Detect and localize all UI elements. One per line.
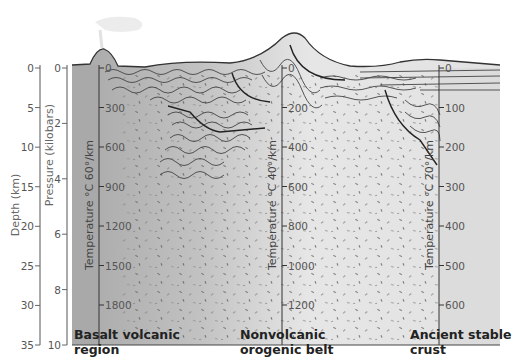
tick-label: 15 xyxy=(21,181,34,193)
tick-label: 900 xyxy=(105,181,125,193)
tick-label: 6 xyxy=(54,228,61,240)
tick-label: 1200 xyxy=(288,299,315,311)
tick-label: 400 xyxy=(445,220,465,232)
tick-label: 20 xyxy=(21,220,34,232)
pressure-axis-label: Pressure (kilobars) xyxy=(43,104,56,206)
temp-label-stable: Temperature °C 20°/km xyxy=(423,140,436,271)
region-label-line: region xyxy=(74,342,180,357)
tick-label: 35 xyxy=(21,339,34,351)
tick-label: 300 xyxy=(445,181,465,193)
tick-label: 1800 xyxy=(105,299,132,311)
tick-label: 30 xyxy=(21,299,34,311)
temp-label-orogenic: Temperature °C 40°/km xyxy=(266,140,279,271)
tick-label: 8 xyxy=(54,284,61,296)
tick-label: 5 xyxy=(27,102,34,114)
depth-axis-label: Depth (km) xyxy=(9,174,22,237)
tick-label: 1200 xyxy=(105,220,132,232)
steam-plume-icon xyxy=(95,17,142,48)
region-label-line: Ancient stable xyxy=(410,327,512,342)
region-label-line: orogenic belt xyxy=(240,342,333,357)
pressure-axis: 0246810 Pressure (kilobars) xyxy=(43,62,67,351)
region-label-line: Nonvolcanic xyxy=(240,327,333,342)
region-label-orogenic: Nonvolcanic orogenic belt xyxy=(240,327,333,357)
temp-label-basalt: Temperature °C 60°/km xyxy=(83,140,96,271)
depth-axis: 05101520253035 Depth (km) xyxy=(9,62,40,351)
tick-label: 200 xyxy=(288,102,308,114)
tick-label: 1000 xyxy=(288,260,315,272)
tick-label: 25 xyxy=(21,260,34,272)
tick-label: 0 xyxy=(445,62,452,74)
tick-label: 300 xyxy=(105,102,125,114)
tick-label: 400 xyxy=(288,141,308,153)
region-label-stable: Ancient stable crust xyxy=(410,327,512,357)
tick-label: 600 xyxy=(105,141,125,153)
tick-label: 600 xyxy=(445,299,465,311)
tick-label: 10 xyxy=(48,339,61,351)
tick-label: 600 xyxy=(288,181,308,193)
tick-label: 0 xyxy=(54,62,61,74)
tick-label: 800 xyxy=(288,220,308,232)
geothermal-gradient-diagram: 05101520253035 Depth (km) 0246810 Pressu… xyxy=(0,0,515,360)
tick-label: 0 xyxy=(27,62,34,74)
tick-label: 0 xyxy=(288,62,295,74)
region-label-line: Basalt volcanic xyxy=(74,327,180,342)
tick-label: 500 xyxy=(445,260,465,272)
tick-label: 200 xyxy=(445,141,465,153)
tick-label: 1500 xyxy=(105,260,132,272)
region-label-line: crust xyxy=(410,342,512,357)
tick-label: 100 xyxy=(445,102,465,114)
tick-label: 0 xyxy=(105,62,112,74)
tick-label: 10 xyxy=(21,141,34,153)
region-label-basalt: Basalt volcanic region xyxy=(74,327,180,357)
